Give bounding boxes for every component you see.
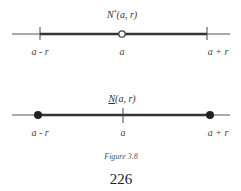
label-a: a xyxy=(121,127,126,138)
left-filled-dot xyxy=(34,111,42,119)
closed-neighborhood-title: N(a, r) xyxy=(108,93,135,104)
label-a-plus-r: a + r xyxy=(208,46,229,57)
closed-neighborhood-line xyxy=(12,108,230,123)
open-circle-center xyxy=(119,31,125,37)
label-a: a xyxy=(120,46,125,57)
deleted-neighborhood-title: N*(a, r) xyxy=(107,9,137,20)
page-number: 226 xyxy=(110,171,133,188)
right-filled-dot xyxy=(206,111,214,119)
deleted-neighborhood-line xyxy=(12,27,230,40)
figure-caption: Figure 3.8 xyxy=(104,152,137,161)
label-a-minus-r: a - r xyxy=(31,46,48,57)
label-a-plus-r: a + r xyxy=(208,127,229,138)
label-a-minus-r: a - r xyxy=(31,127,48,138)
